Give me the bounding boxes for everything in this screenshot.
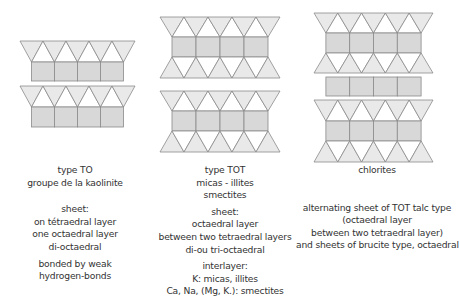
- octahedron: [101, 62, 124, 81]
- sheet-line: on tétraedral layer: [0, 216, 150, 229]
- octahedron: [397, 121, 421, 141]
- octahedron: [350, 33, 374, 53]
- diagram-chlorites: [314, 13, 433, 162]
- description-line: and sheets of brucite type, octaedral: [296, 239, 458, 252]
- octahedron: [196, 111, 220, 131]
- octahedron: [220, 111, 244, 131]
- octahedron: [374, 33, 398, 53]
- octahedron: [244, 111, 268, 131]
- sheet-line: octaedral layer: [150, 218, 300, 231]
- interlayer-line: K: micas, illites: [150, 273, 300, 286]
- column-to: type TO groupe de la kaolinite sheet: on…: [0, 164, 150, 283]
- octahedron: [172, 37, 196, 57]
- octahedron: [350, 121, 374, 141]
- octahedron: [374, 121, 398, 141]
- title-line: type TOT: [150, 164, 300, 177]
- octahedron: [55, 107, 78, 127]
- octahedron: [326, 121, 350, 141]
- octahedron: [32, 62, 55, 81]
- title-line: micas - illites: [150, 177, 300, 190]
- octahedron: [196, 37, 220, 57]
- octahedron: [244, 37, 268, 57]
- description-line: between two tetraedral layer): [296, 227, 458, 240]
- sheet-line: di-ou tri-octaedral: [150, 244, 300, 257]
- octahedron: [397, 33, 421, 53]
- sheet-line: di-octaedral: [0, 241, 150, 254]
- octahedron: [326, 77, 350, 96]
- sheet-line: between two tetraedral layers: [150, 231, 300, 244]
- title-line: chlorites: [296, 164, 458, 177]
- clay-structure-diagrams: [0, 0, 454, 170]
- octahedron: [350, 77, 374, 96]
- sheet-line: sheet:: [150, 206, 300, 219]
- octahedron: [172, 111, 196, 131]
- title-line: groupe de la kaolinite: [0, 177, 150, 190]
- title-line: smectites: [150, 189, 300, 202]
- interlayer-line: interlayer:: [150, 260, 300, 273]
- octahedron: [78, 62, 101, 81]
- sheet-line: one octaedral layer: [0, 228, 150, 241]
- diagram-to-kaolinite: [20, 41, 135, 127]
- description-line: (octaedral layer: [296, 214, 458, 227]
- column-chlorites: chlorites alternating sheet of TOT talc …: [296, 164, 458, 252]
- bond-line: hydrogen-bonds: [0, 270, 150, 283]
- octahedron: [78, 107, 101, 127]
- sheet-line: sheet:: [0, 203, 150, 216]
- column-tot: type TOT micas - illites smectites sheet…: [150, 164, 300, 298]
- description-line: alternating sheet of TOT talc type: [296, 202, 458, 215]
- octahedron: [101, 107, 124, 127]
- octahedron: [374, 77, 398, 96]
- interlayer-line: Ca, Na, (Mg, K.): smectites: [150, 285, 300, 298]
- diagram-tot-micas: [160, 17, 280, 152]
- octahedron: [55, 62, 78, 81]
- title-line: type TO: [0, 164, 150, 177]
- bond-line: bonded by weak: [0, 258, 150, 271]
- octahedron: [397, 77, 421, 96]
- octahedron: [220, 37, 244, 57]
- octahedron: [326, 33, 350, 53]
- octahedron: [32, 107, 55, 127]
